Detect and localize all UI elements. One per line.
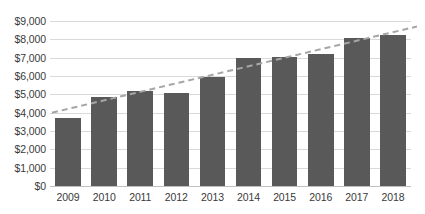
x-tick-label: 2016 [303, 189, 339, 205]
bar-slot [339, 21, 375, 186]
plot-area [50, 21, 411, 186]
x-tick-label: 2012 [158, 189, 194, 205]
y-tick-label: $0 [0, 181, 46, 192]
x-tick-label: 2013 [194, 189, 230, 205]
x-tick-label: 2011 [122, 189, 158, 205]
y-tick-label: $1,000 [0, 162, 46, 173]
bar [127, 91, 153, 186]
x-tick-label: 2017 [339, 189, 375, 205]
x-tick-label: 2015 [267, 189, 303, 205]
y-tick-label: $3,000 [0, 126, 46, 137]
bar [380, 35, 406, 186]
y-tick-label: $8,000 [0, 34, 46, 45]
bar-slot [267, 21, 303, 186]
bars-group [50, 21, 411, 186]
bar [272, 57, 298, 186]
bar-slot [230, 21, 266, 186]
bar-slot [122, 21, 158, 186]
bar [236, 58, 262, 186]
y-tick-label: $9,000 [0, 16, 46, 27]
bar-slot [303, 21, 339, 186]
x-tick-label: 2009 [50, 189, 86, 205]
bar-slot [158, 21, 194, 186]
y-tick-label: $2,000 [0, 144, 46, 155]
y-axis: $9,000$8,000$7,000$6,000$5,000$4,000$3,0… [0, 0, 46, 214]
bar-slot [194, 21, 230, 186]
bar [91, 97, 117, 186]
y-tick-label: $7,000 [0, 52, 46, 63]
bar-slot [86, 21, 122, 186]
x-axis: 2009201020112012201320142015201620172018 [50, 189, 411, 205]
x-tick-label: 2014 [230, 189, 266, 205]
bar [308, 54, 334, 186]
bar-chart-figure: $9,000$8,000$7,000$6,000$5,000$4,000$3,0… [0, 0, 425, 214]
bar-slot [375, 21, 411, 186]
bar [200, 77, 226, 186]
bar [344, 38, 370, 187]
bar-slot [50, 21, 86, 186]
bar [55, 118, 81, 186]
y-tick-label: $4,000 [0, 107, 46, 118]
bar [164, 93, 190, 187]
x-tick-label: 2018 [375, 189, 411, 205]
y-tick-label: $5,000 [0, 89, 46, 100]
y-tick-label: $6,000 [0, 71, 46, 82]
x-tick-label: 2010 [86, 189, 122, 205]
axis-baseline [50, 186, 411, 187]
